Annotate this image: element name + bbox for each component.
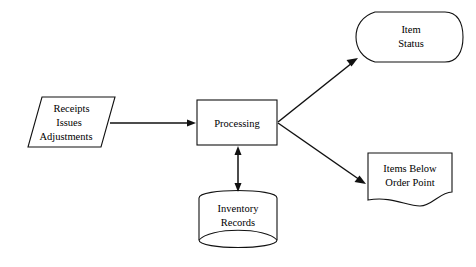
document-output-line2: Order Point: [385, 177, 434, 188]
node-process[interactable]: Processing: [197, 100, 277, 145]
connector-process-to-document: [278, 123, 366, 184]
arrowhead-up: [235, 146, 242, 155]
input-source-line3: Adjustments: [39, 131, 92, 142]
connector-line: [278, 123, 360, 180]
node-storage[interactable]: Inventory Records: [199, 191, 277, 248]
flowchart-canvas: Receipts Issues Adjustments Processing I…: [0, 0, 476, 267]
storage-line1: Inventory: [218, 203, 260, 214]
display-output-line1: Item: [401, 24, 420, 35]
connector-line: [278, 63, 352, 122]
node-document-output[interactable]: Items Below Order Point: [368, 153, 452, 206]
storage-line2: Records: [221, 217, 255, 228]
display-output-line2: Status: [398, 38, 424, 49]
display-shape: [356, 12, 463, 62]
connector-process-to-display: [278, 58, 358, 122]
input-source-line2: Issues: [56, 117, 82, 128]
flowchart-diagram: Receipts Issues Adjustments Processing I…: [0, 0, 476, 267]
document-output-line1: Items Below: [383, 163, 437, 174]
connector-input-to-process: [110, 120, 196, 127]
input-source-line1: Receipts: [53, 103, 89, 114]
arrowhead-right: [187, 120, 196, 127]
node-input-source[interactable]: Receipts Issues Adjustments: [28, 97, 115, 147]
process-label: Processing: [214, 118, 260, 129]
node-display-output[interactable]: Item Status: [356, 12, 463, 62]
connector-process-to-storage: [235, 146, 242, 192]
